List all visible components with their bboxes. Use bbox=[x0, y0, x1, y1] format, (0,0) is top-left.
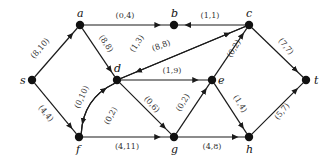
node-label-a: a bbox=[77, 7, 84, 20]
edge-label-a-d: (8,8) bbox=[97, 33, 115, 54]
node-a bbox=[76, 21, 84, 29]
node-label-e: e bbox=[218, 74, 225, 87]
edge-label-g-h: (4,8) bbox=[203, 142, 222, 151]
edge-label-e-h: (1,4) bbox=[231, 93, 249, 114]
edge-label-f-g: (4,11) bbox=[115, 142, 139, 151]
node-c bbox=[245, 21, 253, 29]
edge-label-a-b: (0,4) bbox=[116, 11, 135, 20]
node-label-t: t bbox=[314, 74, 319, 87]
edge-label-s-f: (4,4) bbox=[36, 103, 55, 123]
nodes-layer: sabcdetfgh bbox=[20, 7, 319, 156]
edge-label-e-c: (0,2) bbox=[225, 38, 243, 59]
node-label-h: h bbox=[246, 143, 253, 156]
edge-c-t bbox=[252, 28, 303, 77]
edge-label-d-e: (1,9) bbox=[163, 66, 182, 75]
edge-label-c-d: (1,3) bbox=[128, 33, 146, 54]
node-label-c: c bbox=[246, 7, 252, 20]
node-e bbox=[208, 76, 216, 84]
edge-label-f-d: (0,10) bbox=[73, 84, 91, 110]
edge-label-d-g: (0,6) bbox=[142, 94, 161, 114]
edge-label-s-a: (8,10) bbox=[29, 36, 52, 60]
node-label-b: b bbox=[171, 7, 178, 20]
edge-label-d-f: (0,2) bbox=[102, 105, 119, 126]
node-label-d: d bbox=[114, 62, 121, 75]
edge-d-g bbox=[120, 83, 171, 134]
node-label-s: s bbox=[20, 74, 26, 87]
edge-label-h-t: (5,7) bbox=[273, 101, 292, 121]
edge-label-g-e: (0,2) bbox=[174, 92, 192, 113]
node-t bbox=[302, 76, 310, 84]
node-g bbox=[170, 133, 178, 141]
edge-label-d-c: (8,8) bbox=[151, 38, 172, 53]
node-f bbox=[75, 133, 83, 141]
flow-network-diagram: (8,10)(4,4)(0,4)(8,8)(1,1)(1,3)(8,8)(1,9… bbox=[0, 0, 334, 165]
edge-label-c-b: (1,1) bbox=[201, 11, 220, 20]
node-b bbox=[170, 21, 178, 29]
node-h bbox=[245, 133, 253, 141]
edge-a-d bbox=[82, 28, 115, 76]
node-label-g: g bbox=[171, 143, 178, 156]
node-d bbox=[113, 76, 121, 84]
node-s bbox=[28, 76, 36, 84]
node-label-f: f bbox=[75, 143, 82, 156]
